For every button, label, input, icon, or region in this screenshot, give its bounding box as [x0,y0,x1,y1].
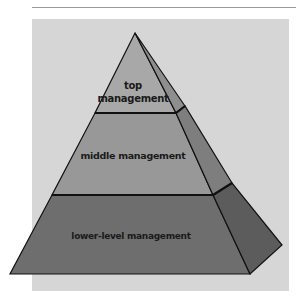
label-top-management-line1: top [124,80,142,91]
label-lower-level-management: lower-level management [71,231,191,241]
label-middle-management: middle management [80,150,186,161]
label-top-management-line2: management [97,93,169,104]
management-pyramid-diagram: top management middle management lower-l… [0,0,308,305]
